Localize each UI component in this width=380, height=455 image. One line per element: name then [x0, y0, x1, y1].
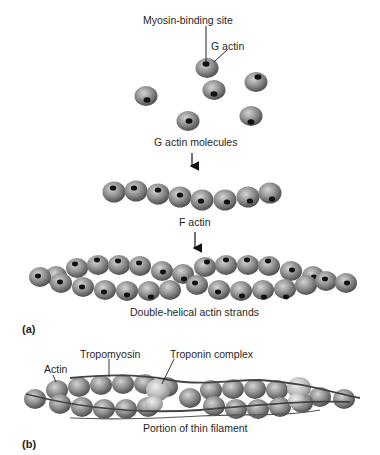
actin-filament-diagram: Myosin-binding site G actin G actin mole…: [0, 0, 380, 455]
label-g-actin: G actin: [211, 40, 244, 52]
f-actin-chain: [103, 181, 282, 211]
label-f-actin: F actin: [179, 216, 211, 228]
label-actin: Actin: [44, 363, 67, 375]
panel-label-b: (b): [22, 438, 36, 450]
label-troponin-complex: Troponin complex: [170, 348, 253, 360]
label-myosin-binding-site: Myosin-binding site: [143, 14, 233, 26]
double-helical-strands: [29, 255, 357, 301]
label-portion-thin-filament: Portion of thin filament: [143, 422, 247, 434]
label-double-helical-strands: Double-helical actin strands: [130, 306, 259, 318]
g-actin-molecules: [135, 72, 268, 131]
g-actin-single: [182, 0, 227, 78]
thin-filament: [24, 359, 360, 419]
label-g-actin-molecules: G actin molecules: [154, 136, 237, 148]
label-tropomyosin: Tropomyosin: [80, 348, 140, 360]
panel-label-a: (a): [22, 323, 35, 335]
